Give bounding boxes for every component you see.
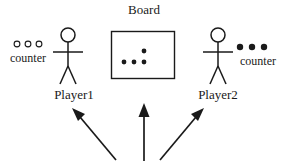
board-token [142, 49, 147, 54]
counter-token-filled [249, 44, 255, 50]
player2-head [211, 28, 225, 42]
board-rectangle [112, 32, 175, 79]
board-token [142, 60, 147, 65]
arrow-head [139, 103, 150, 117]
counter-token-hollow [14, 41, 20, 47]
counter-token-filled [237, 44, 243, 50]
player2-label: Player2 [178, 88, 258, 101]
arrow-to-board [139, 103, 150, 161]
player1-head [61, 28, 75, 42]
arrow-shaft [80, 117, 116, 160]
counter-token-filled [261, 44, 267, 50]
player1-leg-right [68, 66, 76, 84]
counter-token-hollow [25, 41, 31, 47]
board-title: Board [0, 3, 288, 16]
arrow-head [191, 108, 204, 121]
arrow-to-player2 [160, 108, 204, 160]
arrow-shaft [160, 117, 196, 160]
player2-leg-left [210, 66, 218, 84]
player2-leg-right [218, 66, 226, 84]
player2-figure [203, 28, 233, 84]
counter-token-hollow [36, 41, 42, 47]
player1-counters [14, 41, 42, 47]
board-token [132, 60, 137, 65]
diagram-scene [0, 0, 288, 166]
diagram-canvas: Board counter counter Player1 Player2 [0, 0, 288, 166]
board-group [112, 32, 175, 79]
arrow-to-player1 [72, 108, 116, 160]
player2-counter-label: counter [230, 55, 286, 67]
player1-figure [53, 28, 83, 84]
player1-counter-label: counter [0, 52, 56, 64]
arrow-head [72, 108, 85, 121]
player2-counters [237, 44, 267, 50]
player1-label: Player1 [34, 88, 114, 101]
player1-leg-left [60, 66, 68, 84]
board-token [122, 60, 127, 65]
